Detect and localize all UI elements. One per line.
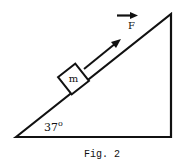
degree-symbol: o (58, 119, 63, 128)
incline-triangle (16, 14, 171, 137)
angle-label: 37o (44, 119, 63, 134)
incline-diagram: m F 37o Fig. 2 (0, 0, 185, 164)
block-label: m (69, 73, 79, 84)
incline-arrow (84, 39, 121, 69)
figure-caption: Fig. 2 (84, 149, 120, 160)
force-arrow (117, 12, 138, 19)
force-label: F (128, 20, 135, 31)
